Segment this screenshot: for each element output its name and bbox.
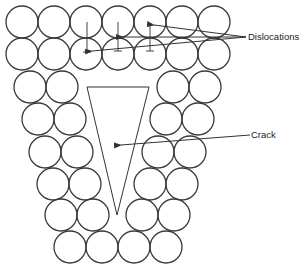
atom-circle: [166, 168, 198, 200]
dislocation-symbol: [114, 22, 122, 51]
atom-circle: [69, 168, 101, 200]
atom-circle: [6, 38, 38, 70]
atom-circle: [150, 231, 182, 263]
atom-circle: [45, 199, 77, 231]
dislocation-arrow-1: [92, 37, 246, 51]
atom-circle: [46, 71, 78, 103]
atom-circle: [166, 6, 198, 38]
atom-circle: [118, 231, 150, 263]
atom-circle: [38, 6, 70, 38]
atom-circle: [54, 103, 86, 135]
dislocation-arrow-3: [154, 25, 246, 37]
atom-circle: [158, 199, 190, 231]
atom-circle: [189, 71, 221, 103]
crack-label: Crack: [251, 129, 276, 140]
atom-circle: [38, 38, 70, 70]
atom-circle: [54, 231, 86, 263]
atom-circle: [37, 168, 69, 200]
atom-circle: [134, 168, 166, 200]
atom-circle: [77, 199, 109, 231]
atom-circle: [70, 6, 102, 38]
atom-circle: [150, 103, 182, 135]
atom-circle: [29, 136, 61, 168]
atom-circle: [198, 38, 230, 70]
dislocations-label: Dislocations: [248, 31, 299, 42]
atom-circle: [157, 71, 189, 103]
atom-circle: [182, 103, 214, 135]
atom-circle: [86, 231, 118, 263]
atom-circle: [61, 136, 93, 168]
atom-circle: [126, 199, 158, 231]
atom-circle: [6, 6, 38, 38]
atom-circle: [14, 71, 46, 103]
atom-circle: [70, 38, 102, 70]
crystal-crack-diagram: Dislocations Crack: [0, 0, 307, 268]
atom-circle: [22, 103, 54, 135]
